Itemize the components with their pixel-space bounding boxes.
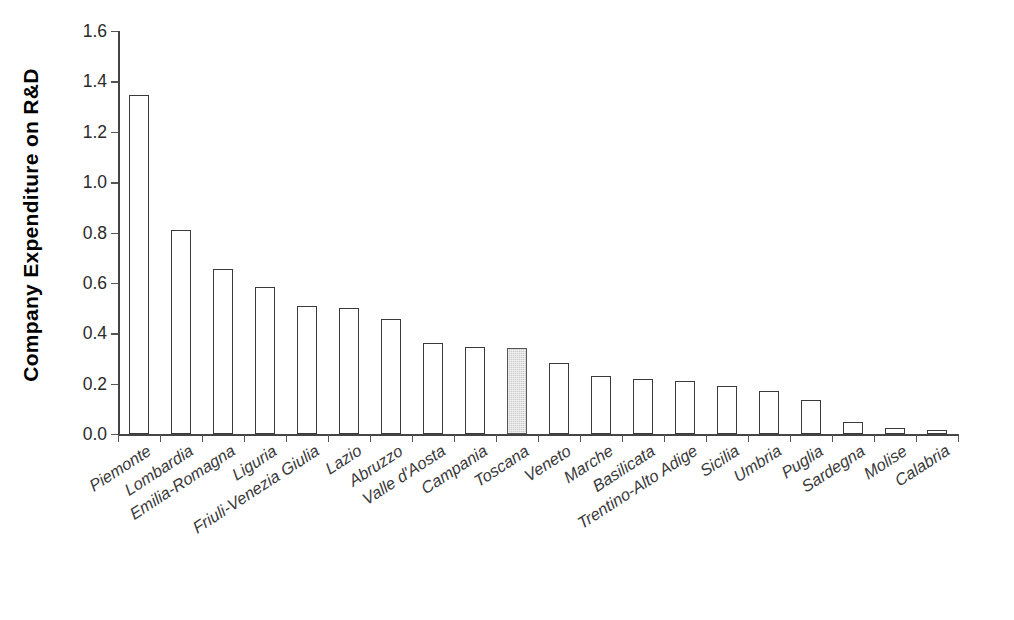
bar-lombardia xyxy=(171,230,190,434)
bar-valle-d-aosta xyxy=(423,343,442,434)
y-tick-label: 0.4 xyxy=(83,323,107,344)
y-tick-label: 0.0 xyxy=(83,424,107,445)
bar-chart: Company Expenditure on R&D 0.00.20.40.60… xyxy=(0,0,1014,620)
y-tick-label: 1.2 xyxy=(83,121,107,142)
y-tick-mark xyxy=(111,333,118,334)
y-tick-mark xyxy=(111,182,118,183)
y-tick-label: 1.4 xyxy=(83,71,107,92)
y-axis-title: Company Expenditure on R&D xyxy=(14,5,48,445)
y-tick-label: 0.8 xyxy=(83,222,107,243)
bar-basilicata xyxy=(633,379,652,434)
y-axis-line xyxy=(118,31,120,434)
bar-umbria xyxy=(759,391,778,434)
bar-sicilia xyxy=(717,386,736,434)
bar-sardegna xyxy=(843,422,862,434)
bar-campania xyxy=(465,347,484,434)
y-tick-label: 1.0 xyxy=(83,172,107,193)
x-tick-mark xyxy=(958,434,959,442)
plot-area: 0.00.20.40.60.81.01.21.41.6 xyxy=(118,31,958,434)
y-tick-mark xyxy=(111,81,118,82)
bar-emilia-romagna xyxy=(213,269,232,434)
bar-liguria xyxy=(255,287,274,434)
bar-piemonte xyxy=(129,95,148,434)
y-tick-mark xyxy=(111,384,118,385)
y-tick-mark xyxy=(111,132,118,133)
bar-friuli-venezia-giulia xyxy=(297,306,316,434)
bar-marche xyxy=(591,376,610,434)
bar-veneto xyxy=(549,363,568,434)
y-tick-label: 1.6 xyxy=(83,21,107,42)
x-axis-labels: PiemonteLombardiaEmilia-RomagnaLiguriaFr… xyxy=(118,434,958,620)
y-tick-mark xyxy=(111,233,118,234)
y-tick-label: 0.6 xyxy=(83,272,107,293)
y-tick-mark xyxy=(111,283,118,284)
bar-lazio xyxy=(339,308,358,434)
bar-puglia xyxy=(801,400,820,434)
bar-trentino-alto-adige xyxy=(675,381,694,434)
y-tick-label: 0.2 xyxy=(83,373,107,394)
y-tick-mark xyxy=(111,434,118,435)
bar-abruzzo xyxy=(381,319,400,434)
bar-toscana xyxy=(507,348,526,434)
y-tick-mark xyxy=(111,31,118,32)
